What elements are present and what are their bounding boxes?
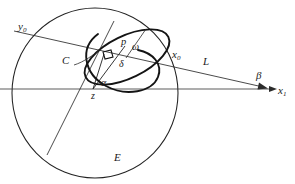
label-omega: ω [132, 42, 139, 52]
label-z: z [91, 91, 95, 101]
label-beta: β [256, 70, 261, 81]
label-C: C [62, 55, 69, 66]
right-angle-icon [103, 50, 113, 59]
diagram-canvas [0, 0, 295, 184]
label-p: p [121, 37, 126, 48]
label-L: L [203, 56, 209, 67]
x1-arrowhead [269, 86, 277, 92]
label-alpha: α [101, 78, 106, 88]
geometry-diagram: y0 C p ω δ α z x0 L β x1 E [0, 0, 295, 184]
label-x1: x1 [278, 85, 286, 98]
label-x0: x0 [172, 49, 180, 62]
beta-arrowhead [258, 83, 269, 90]
ray-L [14, 31, 268, 90]
label-y0: y0 [18, 21, 26, 34]
label-E: E [114, 152, 121, 163]
outer-ellipse-E [12, 8, 178, 178]
label-delta: δ [119, 59, 124, 69]
